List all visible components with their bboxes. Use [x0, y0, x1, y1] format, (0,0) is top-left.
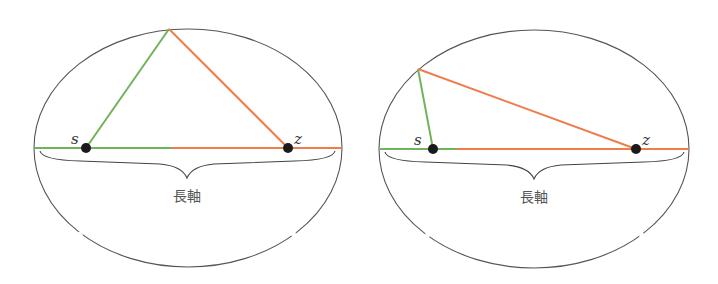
major-axis-brace: [40, 151, 335, 178]
focus-s-to-vertex-line: [86, 29, 169, 148]
ellipse-diagrams: s z 長軸 s z 長軸: [0, 0, 718, 284]
focus-s-dot: [428, 144, 438, 154]
focus-z-label: z: [641, 131, 650, 149]
major-axis-label: 長軸: [173, 188, 201, 204]
diagram-left: s z 長軸: [34, 29, 342, 267]
diagram-right: s z 長軸: [379, 30, 689, 268]
major-axis-label: 長軸: [520, 189, 548, 205]
vertex-to-focus-z-line: [418, 69, 636, 149]
focus-z-label: z: [293, 130, 302, 148]
ellipse-gap: [426, 233, 429, 237]
ellipse-gap: [292, 232, 295, 236]
focus-z-dot: [283, 143, 293, 153]
focus-s-label: s: [414, 131, 422, 149]
focus-z-dot: [631, 144, 641, 154]
focus-s-dot: [81, 143, 91, 153]
focus-s-label: s: [71, 130, 79, 148]
major-axis-brace: [385, 152, 684, 179]
ellipse-gap: [79, 232, 82, 236]
ellipse-gap: [640, 233, 643, 237]
